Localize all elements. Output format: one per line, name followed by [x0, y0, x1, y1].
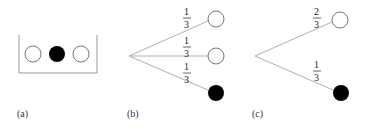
ball-white-1: [25, 46, 41, 62]
svg-text:3: 3: [184, 48, 189, 59]
diagram-canvas: (a) 1 3 1 3 1 3 (b) 2: [0, 0, 369, 129]
outcome-c-black: [333, 85, 349, 101]
svg-text:1: 1: [184, 35, 189, 46]
branch-b-3: [129, 56, 208, 90]
prob-b-3: 1 3: [183, 61, 191, 85]
svg-text:1: 1: [314, 59, 319, 70]
svg-text:3: 3: [314, 19, 319, 30]
prob-c-2: 1 3: [313, 59, 321, 83]
outcome-c-white: [332, 12, 348, 28]
ball-white-2: [73, 46, 89, 62]
branch-c-1: [255, 22, 332, 56]
panel-c: 2 3 1 3 (c): [252, 6, 349, 120]
svg-text:1: 1: [184, 61, 189, 72]
prob-b-2: 1 3: [183, 35, 191, 59]
panel-c-label: (c): [252, 108, 263, 120]
svg-text:3: 3: [184, 19, 189, 30]
prob-b-1: 1 3: [183, 6, 191, 30]
branch-c-2: [255, 56, 333, 90]
outcome-b-white-1: [208, 11, 224, 27]
svg-text:3: 3: [314, 72, 319, 83]
svg-text:3: 3: [184, 74, 189, 85]
ball-black: [49, 46, 65, 62]
outcome-b-white-2: [208, 48, 224, 64]
branch-b-1: [129, 21, 208, 56]
prob-c-1: 2 3: [313, 6, 321, 30]
panel-b-label: (b): [127, 108, 139, 120]
svg-text:2: 2: [314, 6, 319, 17]
panel-a-label: (a): [17, 108, 28, 120]
panel-b: 1 3 1 3 1 3 (b): [127, 6, 224, 120]
panel-a: (a): [17, 35, 97, 120]
svg-text:1: 1: [184, 6, 189, 17]
outcome-b-black: [208, 85, 224, 101]
